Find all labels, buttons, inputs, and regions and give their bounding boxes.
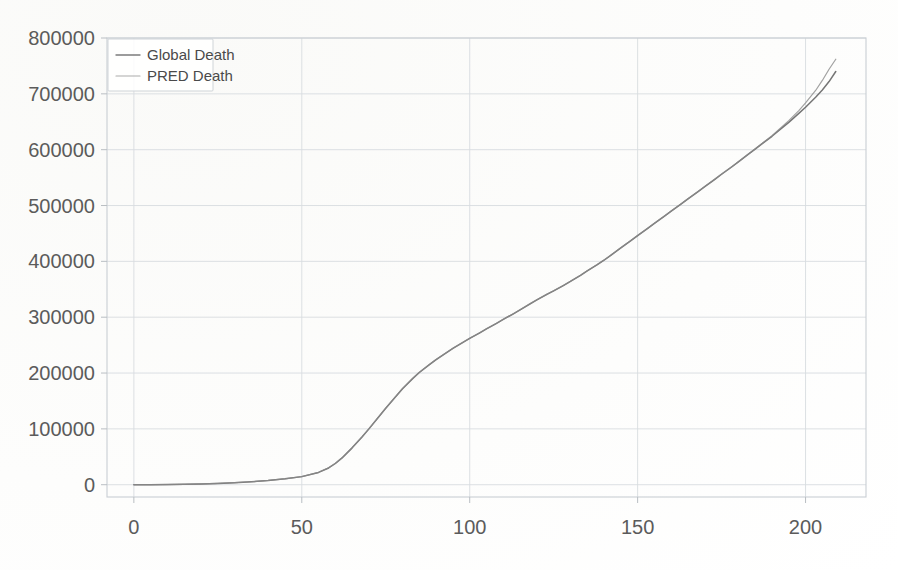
line-chart-canvas: 0100000200000300000400000500000600000700… [0, 0, 898, 570]
y-axis-tick-label: 800000 [28, 27, 95, 49]
y-axis-tick-label: 400000 [28, 250, 95, 272]
x-axis-tick-label: 0 [128, 516, 139, 538]
plot-frame [107, 38, 866, 497]
y-axis-tick-label: 200000 [28, 362, 95, 384]
series-line-pred-death [134, 59, 836, 485]
y-axis-tick-label: 100000 [28, 418, 95, 440]
legend-label-pred-death: PRED Death [147, 67, 233, 84]
series-line-global-death [134, 72, 836, 485]
chart-figure: 0100000200000300000400000500000600000700… [0, 0, 898, 570]
x-axis-tick-label: 50 [291, 516, 313, 538]
x-axis-tick-label: 200 [789, 516, 822, 538]
y-axis-tick-label: 500000 [28, 195, 95, 217]
y-axis-tick-label: 700000 [28, 83, 95, 105]
x-axis-tick-label: 100 [453, 516, 486, 538]
y-axis-tick-label: 300000 [28, 306, 95, 328]
x-axis-tick-label: 150 [621, 516, 654, 538]
y-axis-tick-label: 0 [84, 474, 95, 496]
legend-label-global-death: Global Death [147, 46, 235, 63]
y-axis-tick-label: 600000 [28, 139, 95, 161]
